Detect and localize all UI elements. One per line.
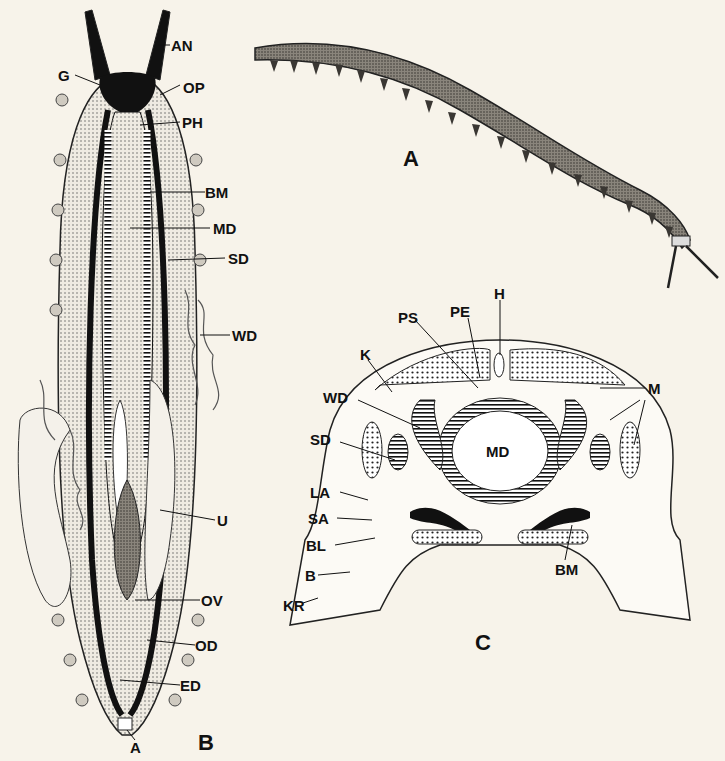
label-b-oral-papilla: OP [183,80,205,95]
label-b-pharynx: PH [182,115,203,130]
label-c-pericardial-septum-e: PE [450,304,470,319]
label-c-heart: H [494,286,505,301]
label-b-ejaculatory-duct: ED [180,678,201,693]
label-b-white-duct: WD [232,328,257,343]
label-b-midgut: MD [213,221,236,236]
label-b-anus: A [130,740,141,755]
label-c-b: B [305,568,316,583]
label-b-slime-duct: SD [228,251,249,266]
label-c-sa: SA [308,511,329,526]
panel-c-cross-section [290,340,690,625]
label-b-oviduct: OD [195,638,218,653]
label-c-midgut: MD [486,444,509,459]
label-c-body-muscle: BM [555,562,578,577]
label-c-la: LA [310,485,330,500]
label-c-bl: BL [306,538,326,553]
panel-a-animal [255,43,718,288]
panel-c-caption: C [475,632,491,654]
label-c-slime-duct: SD [310,432,331,447]
label-b-uterus: U [217,513,228,528]
panel-a-caption: A [403,148,419,170]
diagram-canvas [0,0,725,761]
label-c-muscle: M [648,381,661,396]
label-b-ovary: OV [201,593,223,608]
label-c-k: K [360,347,371,362]
label-b-body-muscle: BM [205,185,228,200]
label-b-antenna: AN [171,38,193,53]
label-c-pericardial-sinus: PS [398,310,418,325]
panel-b-caption: B [198,732,214,754]
label-c-white-duct: WD [323,390,348,405]
label-c-kr: KR [283,598,305,613]
label-b-ganglion: G [58,68,70,83]
